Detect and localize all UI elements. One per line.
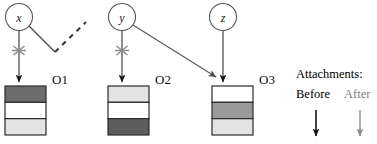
node-y: y [109, 4, 136, 31]
object-O1-band-0 [5, 86, 46, 102]
legend: Attachments: Before After [296, 67, 371, 136]
edge-y-to-O3 [133, 25, 216, 77]
object-O3-band-2 [212, 119, 253, 135]
object-O1-band-1 [5, 102, 46, 118]
node-z-label: z [220, 11, 226, 25]
edge-x-dangling-solid [29, 26, 55, 52]
object-O1-band-2 [5, 119, 46, 135]
object-O2-band-0 [108, 86, 149, 102]
sever-marker-x [12, 44, 26, 57]
object-O1-label: O1 [52, 72, 68, 87]
node-x: x [6, 4, 33, 31]
object-O2: O2 [108, 72, 171, 135]
edge-x-dangling-dashes [55, 22, 86, 52]
object-O2-band-1 [108, 102, 149, 118]
node-y-label: y [118, 11, 125, 25]
object-O2-band-2 [108, 119, 149, 135]
object-O2-label: O2 [155, 72, 171, 87]
edge-y-to-O2 [115, 31, 129, 82]
node-x-label: x [15, 11, 22, 25]
edge-y-to-O3-line [133, 25, 216, 77]
sever-marker-y [115, 44, 129, 57]
legend-title: Attachments: [296, 67, 363, 81]
object-O3-band-1 [212, 102, 253, 118]
attachment-diagram: x O1 y [0, 0, 377, 144]
edge-x-dangling [29, 22, 86, 52]
object-O3-band-0 [212, 86, 253, 102]
edge-x-to-O1 [12, 31, 26, 82]
node-z: z [210, 4, 237, 31]
object-O3: O3 [212, 72, 275, 135]
object-O3-label: O3 [259, 72, 275, 87]
legend-after-label: After [344, 87, 371, 101]
object-O1: O1 [5, 72, 68, 135]
legend-before-label: Before [296, 87, 330, 101]
